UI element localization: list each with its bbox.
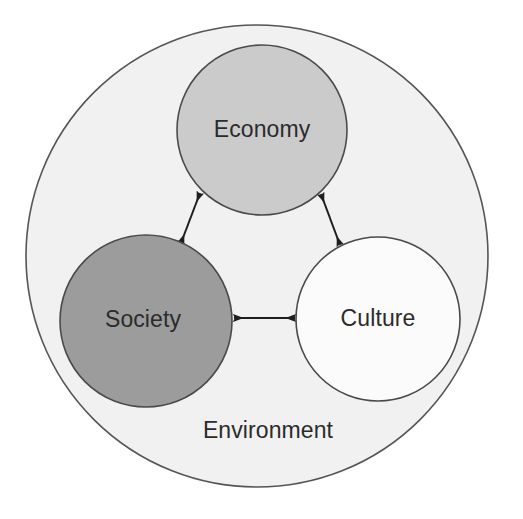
society-label: Society xyxy=(105,306,182,332)
node-culture: Culture xyxy=(296,237,460,401)
node-economy: Economy xyxy=(177,45,347,215)
environment-label: Environment xyxy=(203,417,334,443)
culture-label: Culture xyxy=(341,305,416,331)
node-society: Society xyxy=(60,235,232,407)
sustainability-domains-diagram: Economy Society Culture Environment xyxy=(0,0,523,519)
diagram-canvas: Economy Society Culture Environment xyxy=(0,0,523,519)
economy-label: Economy xyxy=(214,116,311,142)
